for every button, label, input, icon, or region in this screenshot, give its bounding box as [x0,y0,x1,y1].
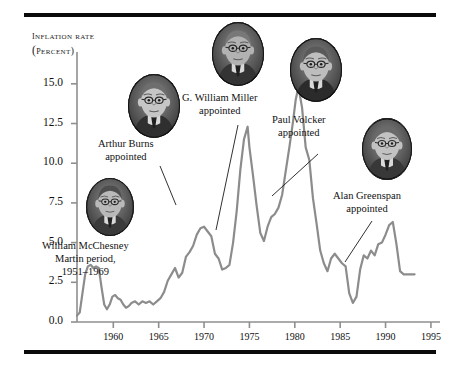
y-tick-label: 15.0 [29,76,63,88]
leader-burns [160,166,176,205]
y-tick-label: 10.0 [29,155,63,167]
callout-greenspan: Alan Greenspanappointed [333,190,401,216]
callout-line: Paul Volcker [272,114,326,127]
x-tick-label: 1980 [275,331,315,342]
y-tick-label: 12.5 [29,116,63,128]
x-tick-label: 1995 [411,331,451,342]
martin-portrait [86,178,134,236]
x-tick-label: 1970 [184,331,224,342]
callout-miller: G. William Millerappointed [182,92,258,118]
x-tick-label: 1965 [139,331,179,342]
callout-line: Martin period, [42,253,129,266]
miller-portrait [212,22,264,86]
callout-burns: Arthur Burnsappointed [98,138,154,164]
x-tick-label: 1985 [320,331,360,342]
leader-miller [216,125,238,230]
callout-line: appointed [272,127,326,140]
x-tick-label: 1960 [93,331,133,342]
y-tick-label: 7.5 [29,195,63,207]
callout-volcker: Paul Volckerappointed [272,114,326,140]
callout-line: Arthur Burns [98,138,154,151]
burns-portrait [128,74,180,138]
y-tick-label: 0.0 [29,314,63,326]
callout-line: appointed [333,203,401,216]
callout-line: Alan Greenspan [333,190,401,203]
callout-martin: William McChesneyMartin period,1951–1969 [42,240,129,278]
x-tick-label: 1990 [366,331,406,342]
volcker-portrait [290,38,342,102]
callout-line: 1951–1969 [42,266,129,279]
inflation-rate-figure: INFLATION RATE (PERCENT) 0.02.55.07.510.… [0,0,459,370]
x-tick-label: 1975 [229,331,269,342]
callout-line: appointed [182,105,258,118]
greenspan-portrait [362,118,412,180]
callout-line: G. William Miller [182,92,258,105]
callout-line: William McChesney [42,240,129,253]
callout-line: appointed [98,151,154,164]
